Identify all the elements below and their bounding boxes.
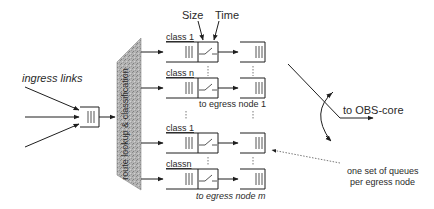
ingress-buffer	[80, 107, 115, 127]
egress1-label: to egress node 1	[199, 99, 266, 109]
queue-egressm-class1: class 1	[141, 123, 265, 153]
ingress-links: ingress links	[22, 72, 83, 147]
queue-egress1-class1: class 1	[141, 32, 265, 62]
obs-core-label: to OBS-core	[343, 104, 404, 116]
classifier-label: route lookup & classification	[120, 68, 130, 180]
note-line-2: per egress node	[350, 177, 415, 187]
ingress-link-arrow-3	[25, 124, 79, 147]
note-queues-per-node: one set of queues per egress node	[272, 150, 419, 187]
class1-bottom-label: class 1	[166, 123, 194, 133]
obs-core-output: to OBS-core	[288, 64, 404, 141]
size-pointer-arrow	[198, 21, 203, 40]
classn-bottom-label: classn	[166, 159, 192, 169]
class1-top-label: class 1	[166, 32, 194, 42]
queue-egress1-classn: class n	[141, 68, 265, 98]
classn-top-label: class n	[166, 68, 194, 78]
egressm-label: to egress node m	[196, 191, 266, 201]
diagram-canvas: ingress links route lookup & classificat…	[0, 0, 434, 209]
time-label: Time	[215, 9, 239, 21]
queue-egressm-classn: classn	[141, 159, 265, 189]
classifier-block: route lookup & classification	[117, 38, 141, 190]
note-line-1: one set of queues	[347, 166, 419, 176]
note-pointer-arrow	[272, 150, 340, 163]
ingress-link-arrow-1	[25, 87, 79, 110]
size-label: Size	[182, 9, 203, 21]
time-pointer-arrow	[214, 21, 219, 40]
ingress-links-label: ingress links	[22, 72, 83, 84]
